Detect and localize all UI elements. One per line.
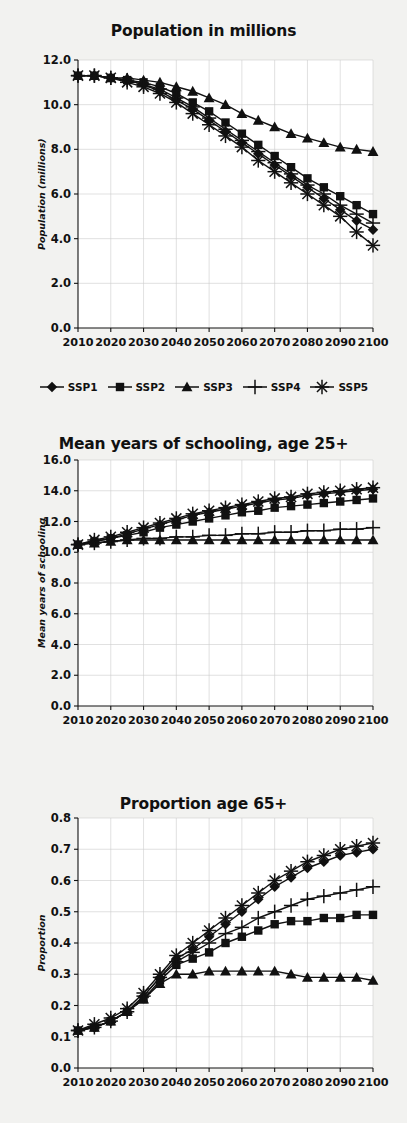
x-axis-tick-label: 2010 (62, 1076, 93, 1089)
data-point-marker-plus (251, 911, 265, 925)
data-point-marker-asterisk (284, 864, 298, 878)
data-point-marker-asterisk (169, 95, 183, 109)
data-point-marker-plus (349, 207, 363, 221)
y-axis-tick-label: 0.1 (31, 1030, 71, 1044)
data-point-marker-asterisk (284, 490, 298, 504)
y-axis-tick-label: 2.0 (31, 668, 71, 682)
data-point-marker-plus (284, 525, 298, 539)
plot-area-proportion: 0.00.10.20.30.40.50.60.70.82010202020302… (78, 818, 373, 1068)
data-point-marker-asterisk (104, 530, 118, 544)
chart-panel-proportion: Proportion age 65+ 0.00.10.20.30.40.50.6… (0, 760, 407, 1123)
data-point-marker-asterisk (268, 165, 282, 179)
data-point-marker-asterisk (315, 380, 329, 394)
legend-item-ssp4[interactable]: SSP4 (242, 380, 301, 394)
data-point-marker-asterisk (218, 501, 232, 515)
chart-canvas (78, 460, 375, 708)
data-point-marker-triangle (269, 122, 280, 132)
y-axis-tick-label: 0.0 (31, 699, 71, 713)
data-point-marker-asterisk (284, 176, 298, 190)
plot-area-population: 0.02.04.06.08.010.012.020102020203020402… (78, 60, 373, 328)
x-axis-tick-label: 2070 (259, 1076, 290, 1089)
x-axis-tick-label: 2040 (161, 336, 192, 349)
y-axis-tick-label: 0.2 (31, 999, 71, 1013)
data-point-marker-plus (284, 898, 298, 912)
data-point-marker-square (115, 383, 123, 391)
data-point-marker-plus (268, 905, 282, 919)
data-point-marker-plus (186, 530, 200, 544)
x-axis-tick-label: 2050 (194, 714, 225, 727)
data-point-marker-asterisk (87, 68, 101, 82)
data-point-marker-asterisk (186, 106, 200, 120)
data-point-marker-asterisk (300, 487, 314, 501)
data-point-marker-asterisk (317, 485, 331, 499)
data-point-marker-asterisk (153, 967, 167, 981)
figure-root: Population in millions 0.02.04.06.08.010… (0, 0, 407, 1123)
data-point-marker-triangle (220, 99, 231, 109)
x-axis-tick-label: 2020 (95, 336, 126, 349)
data-point-marker-square (336, 914, 344, 922)
data-point-marker-asterisk (300, 187, 314, 201)
x-axis-tick-label: 2020 (95, 1076, 126, 1089)
data-point-marker-plus (251, 527, 265, 541)
data-point-marker-plus (317, 889, 331, 903)
legend-item-ssp5[interactable]: SSP5 (309, 380, 368, 394)
data-point-marker-asterisk (136, 80, 150, 94)
chart-canvas (78, 818, 375, 1070)
x-axis-tick-label: 2090 (325, 714, 356, 727)
data-point-marker-square (352, 911, 360, 919)
data-point-marker-plus (333, 522, 347, 536)
chart-panel-schooling: Mean years of schooling, age 25+ 0.02.04… (0, 400, 407, 760)
data-point-marker-asterisk (186, 936, 200, 950)
data-point-marker-asterisk (71, 68, 85, 82)
data-point-marker-triangle (204, 93, 215, 103)
legend-label: SSP5 (338, 381, 368, 393)
data-point-marker-plus (202, 936, 216, 950)
legend-label: SSP3 (203, 381, 233, 393)
data-point-marker-square (287, 917, 295, 925)
data-point-marker-asterisk (235, 497, 249, 511)
data-point-marker-plus (366, 521, 380, 535)
data-point-marker-asterisk (366, 238, 380, 252)
data-point-marker-triangle (253, 115, 264, 125)
data-point-marker-plus (268, 525, 282, 539)
data-point-marker-asterisk (366, 481, 380, 495)
data-point-marker-plus (235, 920, 249, 934)
legend-marker-square-icon (107, 380, 133, 394)
data-point-marker-asterisk (87, 1017, 101, 1031)
y-axis-tick-label: 2.0 (31, 276, 71, 290)
data-point-marker-plus (366, 880, 380, 894)
legend-label: SSP2 (136, 381, 166, 393)
data-point-marker-square (270, 920, 278, 928)
data-point-marker-asterisk (300, 855, 314, 869)
x-axis-tick-label: 2020 (95, 714, 126, 727)
y-axis-tick-label: 14.0 (31, 484, 71, 498)
legend-item-ssp3[interactable]: SSP3 (174, 380, 233, 394)
x-axis-tick-label: 2030 (128, 714, 159, 727)
x-axis-tick-label: 2080 (292, 336, 323, 349)
data-point-marker-asterisk (317, 848, 331, 862)
data-point-marker-asterisk (349, 225, 363, 239)
legend-item-ssp2[interactable]: SSP2 (107, 380, 166, 394)
data-point-marker-asterisk (333, 209, 347, 223)
legend-label: SSP4 (271, 381, 301, 393)
legend-marker-diamond-icon (39, 380, 65, 394)
data-point-marker-asterisk (268, 873, 282, 887)
y-axis-tick-label: 16.0 (31, 453, 71, 467)
data-point-marker-diamond (47, 382, 58, 393)
legend-item-ssp1[interactable]: SSP1 (39, 380, 98, 394)
data-point-marker-plus (349, 522, 363, 536)
y-axis-label: Population (millions) (36, 138, 47, 250)
data-point-marker-plus (349, 883, 363, 897)
data-point-marker-square (303, 917, 311, 925)
data-point-marker-plus (317, 524, 331, 538)
y-axis-tick-label: 0.7 (31, 842, 71, 856)
x-axis-tick-label: 2070 (259, 336, 290, 349)
data-point-marker-asterisk (153, 516, 167, 530)
plot-area-schooling: 0.02.04.06.08.010.012.014.016.0201020202… (78, 460, 373, 706)
data-point-marker-plus (153, 531, 167, 545)
data-point-marker-asterisk (251, 494, 265, 508)
data-point-marker-asterisk (218, 911, 232, 925)
y-axis-tick-label: 0.0 (31, 1061, 71, 1075)
series-line-ssp3 (78, 971, 373, 1030)
data-point-marker-asterisk (104, 71, 118, 85)
